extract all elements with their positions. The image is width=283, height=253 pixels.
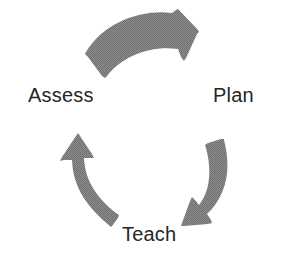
stage-label-teach: Teach	[122, 224, 176, 244]
arrow-plan-to-teach-icon	[181, 139, 227, 226]
cycle-diagram: Assess Plan Teach	[0, 0, 283, 253]
arrow-assess-to-plan-icon	[85, 9, 199, 78]
stage-label-plan: Plan	[213, 85, 254, 105]
cycle-arrows-graphic	[0, 0, 283, 253]
stage-label-assess: Assess	[28, 85, 94, 105]
arrow-teach-to-assess-icon	[60, 133, 119, 227]
